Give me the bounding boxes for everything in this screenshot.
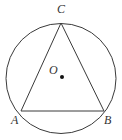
geometry-figure: C A B O xyxy=(0,0,122,140)
label-c: C xyxy=(57,2,66,16)
triangle-abc xyxy=(21,23,104,111)
center-point-o xyxy=(60,75,64,79)
label-o: O xyxy=(49,63,58,77)
label-b: B xyxy=(104,113,112,127)
label-a: A xyxy=(10,113,19,127)
